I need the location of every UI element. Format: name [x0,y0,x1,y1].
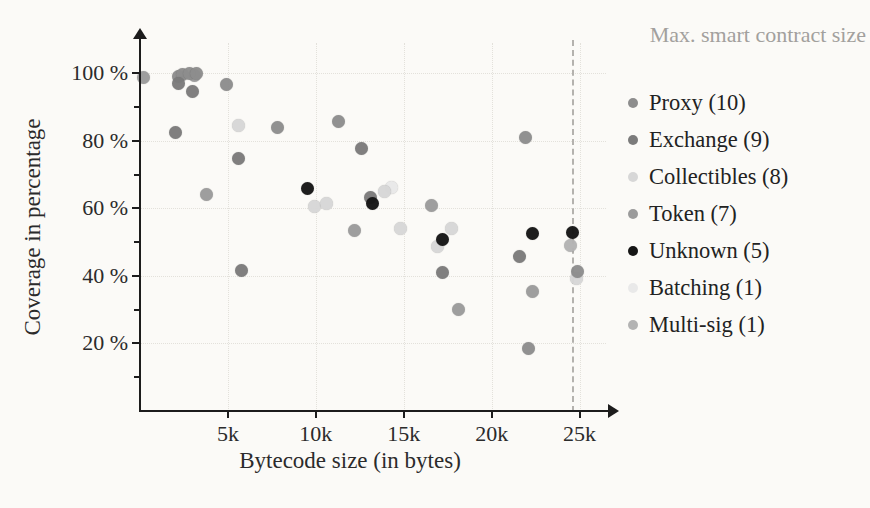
y-tick-mark [132,72,139,74]
y-minor-tick-mark [134,106,139,108]
x-axis-arrow-icon [608,404,619,418]
data-point [445,222,458,235]
legend-marker-icon [628,98,638,108]
data-point [332,115,345,128]
x-tick-label: 25k [550,421,610,447]
data-point [526,285,539,298]
data-point [436,266,449,279]
legend-label: Batching (1) [649,277,762,300]
y-tick-label: 20 % [58,330,128,356]
data-point [200,188,213,201]
gridline-vertical [492,43,493,411]
y-axis-title: Coverage in percentage [20,102,46,352]
gridline-horizontal [140,73,606,74]
x-tick-mark [315,411,317,418]
y-tick-mark [132,342,139,344]
legend: Proxy (10)Exchange (9)Collectibles (8)To… [628,92,788,337]
data-point [526,227,539,240]
y-tick-mark [132,275,139,277]
y-tick-mark [132,207,139,209]
data-point [190,67,203,80]
legend-label: Exchange (9) [649,129,770,152]
data-point [436,233,449,246]
x-tick-label: 15k [374,421,434,447]
legend-marker-icon [628,209,638,219]
y-tick-label: 40 % [58,263,128,289]
data-point [378,185,391,198]
y-tick-mark [132,140,139,142]
data-point [355,142,368,155]
legend-marker-icon [628,320,638,330]
legend-marker-icon [628,135,638,145]
data-point [220,78,233,91]
data-point [452,303,465,316]
legend-item: Multi-sig (1) [628,314,788,337]
data-point [301,182,314,195]
x-axis-title: Bytecode size (in bytes) [130,448,570,474]
max-contract-size-label: Max. smart contract size [650,22,866,48]
data-point [172,77,185,90]
legend-marker-icon [628,283,638,293]
gridline-vertical [580,43,581,411]
data-point [394,222,407,235]
data-point [522,342,535,355]
data-point [232,119,245,132]
data-point [186,85,199,98]
y-tick-label: 60 % [58,195,128,221]
x-tick-mark [491,411,493,418]
y-axis-arrow-icon [133,28,147,39]
x-tick-mark [227,411,229,418]
x-tick-label: 10k [286,421,346,447]
gridline-vertical [228,43,229,411]
data-point [169,126,182,139]
y-tick-label: 100 % [58,60,128,86]
data-point [308,200,321,213]
y-minor-tick-mark [134,174,139,176]
paper-figure: 5k10k15k20k25k100 %80 %60 %40 %20 % Max.… [0,0,870,508]
y-axis [139,38,141,412]
data-point [519,131,532,144]
legend-label: Multi-sig (1) [649,314,765,337]
x-tick-mark [403,411,405,418]
data-point [425,199,438,212]
y-minor-tick-mark [134,376,139,378]
data-point [235,264,248,277]
legend-label: Unknown (5) [649,240,770,263]
y-minor-tick-mark [134,241,139,243]
y-tick-label: 80 % [58,128,128,154]
x-tick-label: 5k [198,421,258,447]
legend-marker-icon [628,246,638,256]
data-point [566,226,579,239]
gridline-horizontal [140,343,606,344]
x-tick-mark [579,411,581,418]
legend-item: Unknown (5) [628,240,788,263]
data-point [366,197,379,210]
data-point [232,152,245,165]
gridline-horizontal [140,276,606,277]
legend-label: Collectibles (8) [649,166,788,189]
legend-label: Token (7) [649,203,737,226]
legend-marker-icon [628,172,638,182]
data-point [320,197,333,210]
legend-item: Exchange (9) [628,129,788,152]
data-point [348,224,361,237]
legend-item: Proxy (10) [628,92,788,115]
x-axis [139,410,611,412]
data-point [513,250,526,263]
legend-item: Collectibles (8) [628,166,788,189]
data-point [271,121,284,134]
legend-label: Proxy (10) [649,92,746,115]
legend-item: Token (7) [628,203,788,226]
gridline-vertical [316,43,317,411]
legend-item: Batching (1) [628,277,788,300]
x-tick-label: 20k [462,421,522,447]
gridline-horizontal [140,141,606,142]
data-point [564,239,577,252]
y-minor-tick-mark [134,309,139,311]
